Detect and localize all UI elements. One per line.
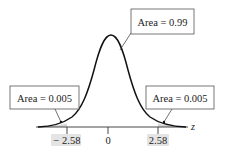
right-annotation-pointer — [164, 109, 172, 122]
tick-label-neg-2-58: − 2.58 — [54, 135, 81, 146]
tick-label-zero: 0 — [105, 135, 110, 146]
tick-label-pos-2-58: 2.58 — [149, 135, 167, 146]
right-pointer-dot — [163, 121, 165, 123]
normal-curve-svg: − 2.58 0 2.58 z Area = 0.99 Area = 0.005… — [0, 0, 227, 160]
bell-curve — [38, 35, 186, 127]
left-pointer-dot — [60, 121, 62, 123]
normal-distribution-figure: − 2.58 0 2.58 z Area = 0.99 Area = 0.005… — [0, 0, 227, 160]
left-area-label: Area = 0.005 — [17, 93, 72, 104]
center-annotation-pointer — [120, 33, 131, 50]
left-annotation-pointer — [55, 109, 61, 122]
z-axis-label: z — [190, 121, 195, 132]
center-area-label: Area = 0.99 — [138, 17, 188, 28]
right-area-label: Area = 0.005 — [152, 93, 207, 104]
